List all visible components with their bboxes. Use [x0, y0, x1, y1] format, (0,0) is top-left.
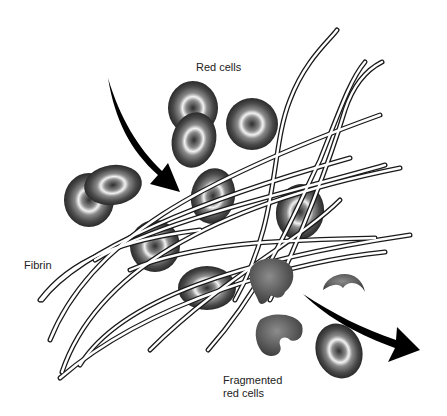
- fragmented-label-line2: red cells: [223, 387, 313, 400]
- fragmented-cell: [256, 315, 303, 356]
- red-cell: [226, 98, 278, 150]
- fragmented-red-cells-label: Fragmented red cells: [223, 374, 313, 400]
- fibrin-label: Fibrin: [24, 259, 52, 272]
- fragmented-label-line1: Fragmented: [223, 374, 313, 387]
- fragmented-cell: [323, 274, 365, 292]
- red-cells-label: Red cells: [196, 61, 241, 74]
